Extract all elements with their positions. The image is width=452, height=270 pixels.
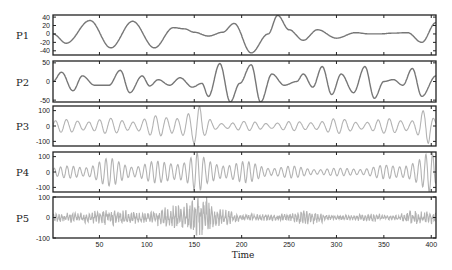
series-line [53,15,436,53]
x-tick-label: 200 [236,241,248,248]
y-tick-label: -100 [36,235,50,242]
y-tick-label: 50 [42,59,50,66]
y-tick-label: 0 [46,30,50,37]
y-tick-label: -20 [40,39,50,46]
y-tick-label: 100 [38,107,50,114]
x-axis: 50100150200250300350400 [96,241,438,248]
x-tick-label: 250 [283,241,295,248]
panel-frame [53,15,436,55]
panel-label: P5 [16,213,29,224]
y-tick-label: 20 [42,22,50,29]
panel-p4: 1000-100P4 [16,152,436,192]
series-line [53,106,436,143]
panel-p2: 500-50P2 [16,59,436,103]
y-tick-label: 40 [42,14,50,21]
y-tick-label: -50 [40,97,50,104]
y-tick-label: 100 [38,153,50,160]
panel-label: P1 [16,30,29,41]
panel-p3: 1000-100P3 [16,106,436,146]
y-tick-label: 0 [46,169,50,176]
x-tick-label: 350 [378,241,390,248]
panel-label: P2 [16,77,29,88]
panel-frame [53,106,436,146]
panel-label: P4 [16,167,29,178]
series-line [53,153,436,192]
x-tick-label: 400 [425,241,437,248]
series-line [53,64,436,102]
y-tick-label: 0 [46,78,50,85]
x-tick-label: 300 [331,241,343,248]
panel-frame [53,61,436,102]
panel-p1: 40200-20-40P1 [16,14,436,55]
panels: 40200-20-40P1500-50P21000-100P31000-100P… [16,14,436,242]
panel-p5: 1000-100P5 [16,194,436,242]
y-tick-label: -40 [40,47,50,54]
y-tick-label: 0 [46,123,50,130]
series-line [53,197,436,235]
y-tick-label: -100 [36,138,50,145]
y-tick-label: 100 [38,194,50,201]
panel-label: P3 [16,121,29,132]
multi-panel-time-series-chart: 40200-20-40P1500-50P21000-100P31000-100P… [0,0,452,270]
y-tick-label: 0 [46,214,50,221]
y-tick-label: -100 [36,184,50,191]
x-tick-label: 150 [188,241,200,248]
x-axis-label: Time [232,250,255,260]
x-tick-label: 100 [141,241,153,248]
x-tick-label: 50 [96,241,104,248]
